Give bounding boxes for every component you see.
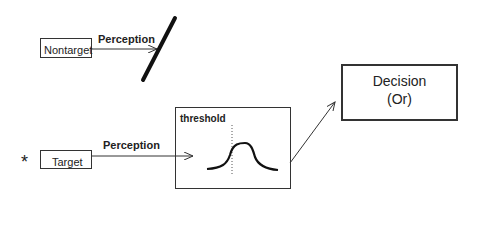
nontarget-box: Nontarget	[40, 38, 92, 58]
decision-sublabel: (Or)	[343, 90, 456, 108]
decision-label: Decision	[343, 72, 456, 90]
nontarget-perception-label: Perception	[98, 33, 155, 45]
threshold-box: threshold	[175, 107, 291, 189]
target-perception-label: Perception	[103, 139, 160, 151]
nontarget-label: Nontarget	[44, 44, 92, 56]
decision-arrow	[290, 102, 335, 163]
decision-box: Decision (Or)	[341, 64, 458, 121]
threshold-label: threshold	[180, 113, 226, 124]
target-label: Target	[52, 156, 83, 168]
target-box: Target	[40, 150, 92, 169]
target-marker: *	[21, 153, 28, 171]
